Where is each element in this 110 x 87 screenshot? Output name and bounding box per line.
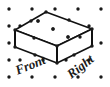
grid-dot bbox=[53, 75, 56, 78]
grid-dot bbox=[7, 7, 10, 10]
solid-face-dot bbox=[66, 35, 69, 38]
grid-dot bbox=[99, 41, 102, 44]
solid-edge-dot bbox=[44, 10, 47, 13]
solid-edge-dot bbox=[29, 19, 32, 22]
grid-dot bbox=[7, 24, 10, 27]
solid-edge-dot bbox=[67, 18, 70, 21]
solid-edge-dot bbox=[32, 36, 35, 39]
grid-dot bbox=[53, 7, 56, 10]
grid-dot bbox=[30, 7, 33, 10]
grid-dot bbox=[7, 58, 10, 61]
grid-dot bbox=[99, 75, 102, 78]
solid-edge-dot bbox=[90, 44, 93, 47]
solid-edge-dot bbox=[13, 28, 16, 31]
solid-edge-dot bbox=[55, 44, 58, 47]
solid-face-dot bbox=[36, 19, 39, 22]
solid-face-dot bbox=[51, 27, 54, 30]
grid-dot bbox=[7, 41, 10, 44]
solid-edge-dot bbox=[72, 53, 75, 56]
solid-edge-dot bbox=[13, 45, 16, 48]
grid-dot bbox=[99, 7, 102, 10]
isometric-drawing-canvas: FrontRight bbox=[0, 0, 110, 87]
grid-dot bbox=[76, 7, 79, 10]
solid-edge-dot bbox=[78, 35, 81, 38]
grid-dot bbox=[7, 75, 10, 78]
solid-edge-dot bbox=[55, 61, 58, 64]
grid-dot bbox=[30, 75, 33, 78]
solid-edge-dot bbox=[90, 27, 93, 30]
isometric-figure: FrontRight bbox=[0, 0, 110, 87]
